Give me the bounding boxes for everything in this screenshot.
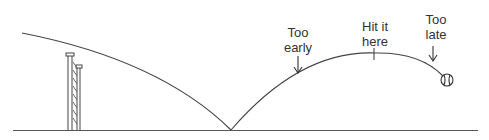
tennis-ball-icon bbox=[441, 74, 453, 86]
diagram-canvas bbox=[0, 0, 489, 140]
arrow-down-icon-too-early bbox=[294, 56, 302, 73]
bounce-trajectory bbox=[231, 53, 443, 130]
label-line: early bbox=[280, 40, 316, 55]
label-hit-here: Hit it here bbox=[354, 19, 396, 49]
arrow-down-icon-too-late bbox=[429, 46, 437, 61]
label-too-early: Too early bbox=[280, 25, 316, 55]
label-line: Too bbox=[418, 12, 454, 27]
label-line: late bbox=[418, 27, 454, 42]
label-too-late: Too late bbox=[418, 12, 454, 42]
net-post-icon bbox=[66, 53, 82, 130]
label-line: Too bbox=[280, 25, 316, 40]
label-line: Hit it bbox=[354, 19, 396, 34]
label-line: here bbox=[354, 34, 396, 49]
incoming-trajectory bbox=[22, 33, 231, 130]
